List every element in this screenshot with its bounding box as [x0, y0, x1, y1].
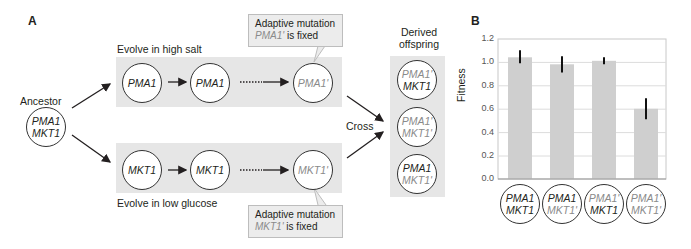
genotype-gene: MKT1': [631, 204, 661, 216]
genotype-label-2: PMA1 MKT1': [542, 184, 582, 224]
genotype-label-3: PMA1' MKT1: [584, 184, 624, 224]
genotype-gene: MKT1: [506, 204, 534, 216]
genotype-gene: PMA1': [631, 192, 662, 204]
genotype-gene: PMA1: [548, 192, 577, 204]
genotype-gene: MKT1: [590, 204, 618, 216]
genotype-label-4: PMA1' MKT1': [626, 184, 666, 224]
genotype-gene: PMA1: [506, 192, 535, 204]
genotype-gene: PMA1': [589, 192, 620, 204]
genotype-label-1: PMA1 MKT1: [500, 184, 540, 224]
genotype-gene: MKT1': [547, 204, 577, 216]
